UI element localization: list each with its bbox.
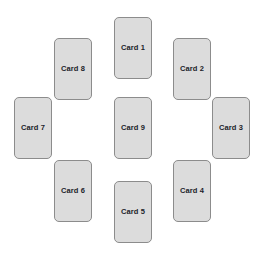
card-label: Card 5 [121,208,145,216]
card-label: Card 1 [121,44,145,52]
card-7[interactable]: Card 7 [14,97,52,159]
card-4[interactable]: Card 4 [173,160,211,222]
card-3[interactable]: Card 3 [212,97,250,159]
card-label: Card 9 [121,124,145,132]
card-5[interactable]: Card 5 [114,181,152,243]
card-board: Card 1Card 2Card 3Card 4Card 5Card 6Card… [0,0,263,261]
card-1[interactable]: Card 1 [114,17,152,79]
card-label: Card 7 [21,124,45,132]
card-label: Card 2 [180,65,204,73]
card-label: Card 6 [61,187,85,195]
card-label: Card 3 [219,124,243,132]
card-6[interactable]: Card 6 [54,160,92,222]
card-9[interactable]: Card 9 [114,97,152,159]
card-8[interactable]: Card 8 [54,38,92,100]
card-label: Card 8 [61,65,85,73]
card-label: Card 4 [180,187,204,195]
card-2[interactable]: Card 2 [173,38,211,100]
